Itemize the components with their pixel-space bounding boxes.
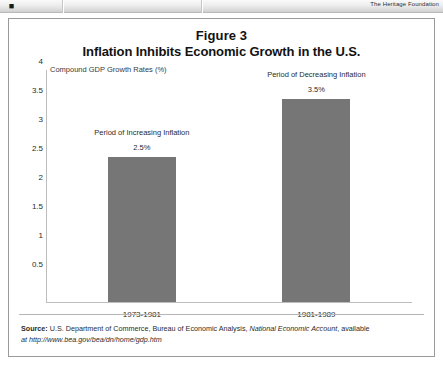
plot-area: 4 3.5 3 2.5 2 1.5 1 0.5 2.5% Period of I… [46,70,412,303]
window-titlebar: ■ The Heritage Foundation [0,0,443,13]
y-tick-3: 3 [39,115,43,124]
brand-label: The Heritage Foundation [370,1,439,7]
bar-1973-1981[interactable] [108,157,176,302]
source-note: Source: U.S. Department of Commerce, Bur… [21,323,426,345]
bar-annotation-1981-1989: Period of Decreasing Inflation [267,69,365,80]
y-tick-1: 1 [39,231,43,240]
source-publication-title: National Economic Account [250,324,338,333]
y-tick-1.5: 1.5 [32,202,43,211]
y-tick-4: 4 [39,57,43,66]
bar-value-1981-1989: 3.5% [308,85,325,94]
document-icon[interactable]: ■ [7,2,16,11]
source-url[interactable]: at http://www.bea.gov/bea/dn/home/gdp.ht… [21,335,162,344]
y-tick-0.5: 0.5 [32,260,43,269]
y-tick-2: 2 [39,173,43,182]
bar-value-1973-1981: 2.5% [133,143,150,152]
source-label: Source: [21,324,48,333]
source-text-after: , available [337,324,369,333]
source-text-before: U.S. Department of Commerce, Bureau of E… [48,324,250,333]
bar-chart: Compound GDP Growth Rates (%) 4 3.5 3 2.… [9,65,434,315]
figure-container: Figure 3 Inflation Inhibits Economic Gro… [8,18,435,357]
bar-annotation-1973-1981: Period of Increasing Inflation [94,127,189,138]
source-divider [19,314,424,315]
figure-title: Inflation Inhibits Economic Growth in th… [9,44,434,59]
bar-1981-1989[interactable] [282,99,350,302]
titlebar-divider-2 [201,0,203,13]
figure-number: Figure 3 [9,28,434,43]
y-tick-2.5: 2.5 [32,144,43,153]
y-tick-3.5: 3.5 [32,86,43,95]
titlebar-divider-1 [62,0,64,13]
